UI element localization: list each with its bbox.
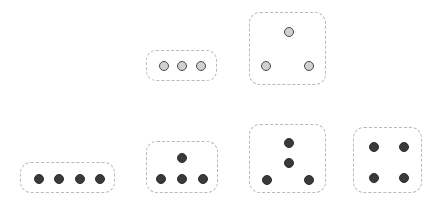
dot	[261, 61, 271, 71]
dot-group-card[interactable]	[20, 162, 115, 193]
dot	[369, 173, 379, 183]
dot	[399, 142, 409, 152]
dot	[159, 61, 169, 71]
dot-pattern-canvas	[0, 0, 436, 202]
dot	[369, 142, 379, 152]
dot	[399, 173, 409, 183]
dot	[54, 174, 64, 184]
dot	[156, 174, 166, 184]
dot	[284, 158, 294, 168]
dot	[177, 174, 187, 184]
dot	[196, 61, 206, 71]
dot-group-card[interactable]	[146, 50, 217, 81]
dot	[262, 175, 272, 185]
dot-group-card[interactable]	[249, 12, 326, 85]
dot	[34, 174, 44, 184]
dot	[284, 27, 294, 37]
dot-group-card[interactable]	[249, 124, 326, 193]
dot-group-card[interactable]	[353, 127, 422, 193]
dot	[284, 138, 294, 148]
dot	[95, 174, 105, 184]
dot	[177, 153, 187, 163]
dot	[177, 61, 187, 71]
dot	[304, 175, 314, 185]
dot	[304, 61, 314, 71]
dot-group-card[interactable]	[146, 141, 218, 193]
dot	[198, 174, 208, 184]
dot	[75, 174, 85, 184]
